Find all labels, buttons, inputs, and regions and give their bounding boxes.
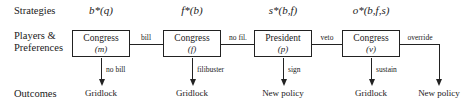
- outcome-sustain: Gridlock: [355, 88, 387, 98]
- branch-arrow-sustain: [371, 58, 372, 80]
- branch-arrow-filibuster: [192, 58, 193, 80]
- node-congress-v[interactable]: Congress (v): [342, 30, 400, 57]
- connector-override-vertical: [439, 44, 440, 80]
- strategy-label-4: o*(b,f,s): [353, 4, 390, 17]
- edge-label-override: override: [408, 34, 433, 43]
- branch-label-sustain: sustain: [376, 66, 397, 75]
- branch-label-sign: sign: [288, 66, 301, 75]
- branch-label-filibuster: filibuster: [197, 66, 224, 75]
- connector-veto: [312, 44, 342, 45]
- branch-arrow-no-bill: [101, 58, 102, 80]
- node-name-3: President: [265, 33, 300, 44]
- strategy-label-2: f*(b): [181, 4, 202, 17]
- row-label-players: Players & Preferences: [14, 30, 63, 53]
- branch-arrow-sign: [283, 58, 284, 80]
- outcome-filibuster: Gridlock: [176, 88, 208, 98]
- row-label-players-line2: Preferences: [14, 42, 63, 54]
- node-name-1: Congress: [83, 33, 118, 44]
- row-label-players-line1: Players &: [14, 30, 63, 42]
- edge-label-veto: veto: [321, 34, 334, 43]
- branch-label-no-bill: no bill: [106, 66, 125, 75]
- node-param-3: (p): [278, 44, 289, 54]
- node-param-4: (v): [366, 44, 376, 54]
- node-param-1: (m): [95, 44, 108, 54]
- connector-bill: [130, 44, 163, 45]
- row-label-outcomes: Outcomes: [14, 88, 57, 100]
- node-president-p[interactable]: President (p): [254, 30, 312, 57]
- outcome-override: New policy: [418, 88, 460, 98]
- game-tree-diagram: Strategies Players & Preferences Outcome…: [0, 0, 467, 106]
- strategy-label-1: b*(q): [89, 4, 113, 17]
- node-congress-f[interactable]: Congress (f): [163, 30, 221, 57]
- node-name-2: Congress: [174, 33, 209, 44]
- row-label-strategies: Strategies: [14, 5, 55, 17]
- connector-override-horizontal: [400, 44, 440, 45]
- node-param-2: (f): [188, 44, 197, 54]
- edge-label-no-filibuster: no fil.: [229, 34, 247, 43]
- outcome-no-bill: Gridlock: [85, 88, 117, 98]
- strategy-label-3: s*(b,f): [269, 4, 297, 17]
- outcome-sign: New policy: [262, 88, 304, 98]
- edge-label-bill: bill: [141, 34, 151, 43]
- node-name-4: Congress: [353, 33, 388, 44]
- connector-no-filibuster: [221, 44, 254, 45]
- node-congress-m[interactable]: Congress (m): [72, 30, 130, 57]
